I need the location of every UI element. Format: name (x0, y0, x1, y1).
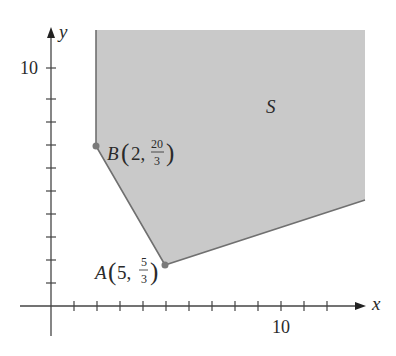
x-axis-arrow-icon (355, 302, 366, 310)
feasible-region-figure: x y 10 10 S B ( 2, 20 3 ) A ( 5, 5 3 ) (0, 0, 396, 356)
x-tick-label-10: 10 (272, 317, 290, 337)
svg-text:A: A (93, 262, 107, 283)
region-label-s: S (266, 96, 276, 117)
svg-text:3: 3 (141, 272, 147, 286)
svg-text:(: ( (121, 139, 129, 167)
svg-text:): ) (166, 139, 174, 167)
svg-text:5,: 5, (117, 262, 131, 283)
point-a-marker (162, 262, 169, 269)
point-a-label: A ( 5, 5 3 ) (93, 255, 158, 286)
y-axis-label: y (57, 21, 68, 42)
y-axis-arrow-icon (47, 27, 55, 38)
svg-text:5: 5 (141, 255, 147, 269)
x-axis-label: x (371, 293, 381, 314)
y-tick-label-10: 10 (20, 58, 38, 78)
svg-text:2,: 2, (131, 143, 145, 164)
point-b-marker (93, 143, 100, 150)
svg-text:B: B (107, 143, 119, 164)
svg-text:3: 3 (154, 154, 160, 168)
svg-text:20: 20 (151, 137, 163, 151)
svg-text:(: ( (108, 258, 116, 286)
svg-text:): ) (150, 258, 158, 286)
